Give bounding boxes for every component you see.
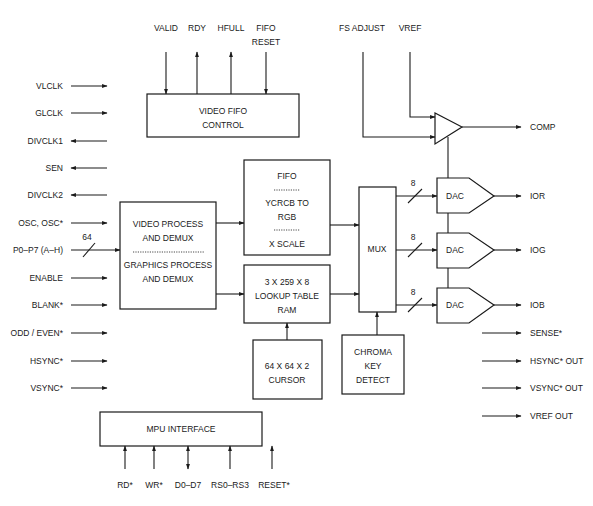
- valid-label: VALID: [154, 23, 178, 33]
- fs-adjust-label: FS ADJUST: [339, 23, 385, 33]
- mpu-interface-block: MPU INTERFACE: [100, 412, 262, 446]
- signal-glclk: GLCLK: [35, 108, 63, 118]
- right-signals: COMP IOR IOG IOB SENSE* HSYNC* OUT VSYNC…: [482, 122, 583, 421]
- lookup-table-block: 3 X 259 X 8 LOOKUP TABLE RAM: [244, 265, 330, 323]
- signal-sen: SEN: [46, 163, 63, 173]
- output-vref: VREF OUT: [530, 411, 573, 421]
- dac-b-label: DAC: [446, 300, 464, 310]
- output-hsync: HSYNC* OUT: [530, 356, 583, 366]
- vref-label: VREF: [399, 23, 422, 33]
- video-process-line1: VIDEO PROCESS: [133, 219, 204, 229]
- fs-adjust-line: [363, 52, 435, 137]
- bus-b-width: 8: [411, 287, 416, 297]
- signal-hsync: HSYNC*: [30, 356, 64, 366]
- output-iob: IOB: [530, 300, 545, 310]
- signal-blank: BLANK*: [32, 300, 64, 310]
- lookup-table-line3: RAM: [278, 305, 297, 315]
- signal-data-bus: D0–D7: [175, 480, 202, 490]
- cursor-line2: CURSOR: [269, 375, 306, 385]
- signal-divclk2: DIVCLK2: [28, 190, 64, 200]
- output-vsync: VSYNC* OUT: [530, 383, 583, 393]
- signal-enable: ENABLE: [29, 273, 63, 283]
- output-iog: IOG: [530, 245, 546, 255]
- video-process-block: VIDEO PROCESS AND DEMUX GRAPHICS PROCESS…: [120, 202, 216, 309]
- signal-osc: OSC, OSC*: [18, 218, 64, 228]
- signal-odd-even: ODD / EVEN*: [11, 328, 64, 338]
- rdy-label: RDY: [188, 23, 206, 33]
- chroma-key-block: CHROMA KEY DETECT: [342, 335, 404, 394]
- video-process-line4: AND DEMUX: [142, 274, 193, 284]
- fifo-line1: FIFO: [277, 171, 297, 181]
- signal-rd: RD*: [117, 480, 133, 490]
- dac-b: DAC: [437, 288, 494, 323]
- bottom-signals: RD* WR* D0–D7 RS0–RS3 RESET*: [117, 446, 290, 490]
- mpu-interface-label: MPU INTERFACE: [147, 424, 216, 434]
- dac-g-label: DAC: [446, 245, 464, 255]
- lookup-table-line2: LOOKUP TABLE: [255, 291, 319, 301]
- output-comp: COMP: [530, 122, 556, 132]
- output-sense: SENSE*: [530, 328, 563, 338]
- video-fifo-control-line2: CONTROL: [202, 120, 244, 130]
- signal-vsync: VSYNC*: [30, 383, 63, 393]
- chroma-key-line2: KEY: [364, 361, 381, 371]
- reference-amplifier: FS ADJUST VREF: [339, 23, 521, 178]
- mux-block: MUX: [359, 187, 396, 312]
- top-signals: VALID RDY HFULL FIFO RESET: [154, 23, 280, 94]
- mux-label: MUX: [368, 244, 387, 254]
- pixel-bus-width: 64: [82, 232, 92, 242]
- video-process-line3: GRAPHICS PROCESS: [124, 260, 213, 270]
- chroma-key-line1: CHROMA: [354, 347, 392, 357]
- dac-r-label: DAC: [446, 191, 464, 201]
- signal-divclk1: DIVCLK1: [28, 136, 64, 146]
- chroma-key-line3: DETECT: [356, 375, 390, 385]
- dac-r: DAC: [437, 178, 494, 213]
- cursor-line1: 64 X 64 X 2: [265, 361, 310, 371]
- dac-g: DAC: [437, 233, 494, 268]
- dac-buses: 8 8 8: [396, 178, 437, 312]
- cursor-block: 64 X 64 X 2 CURSOR: [253, 340, 322, 399]
- vref-line: [410, 52, 435, 117]
- fifo-line4: X SCALE: [269, 239, 305, 249]
- bus-g-width: 8: [411, 232, 416, 242]
- video-process-line2: AND DEMUX: [142, 233, 193, 243]
- fifo-line3: RGB: [278, 212, 297, 222]
- fifo-reset-label-2: RESET: [252, 37, 280, 47]
- bus-r-width: 8: [411, 178, 416, 188]
- block-diagram: VALID RDY HFULL FIFO RESET VIDEO FIFO CO…: [0, 0, 593, 506]
- signal-vlclk: VLCLK: [36, 81, 63, 91]
- left-signals: VLCLK GLCLK DIVCLK1 SEN DIVCLK2 OSC, OSC…: [11, 81, 120, 393]
- video-fifo-control-block: VIDEO FIFO CONTROL: [147, 94, 299, 137]
- fifo-reset-label-1: FIFO: [256, 23, 276, 33]
- fifo-block: FIFO YCRCB TO RGB X SCALE: [244, 160, 330, 255]
- hfull-label: HFULL: [218, 23, 245, 33]
- signal-rs: RS0–RS3: [211, 480, 249, 490]
- signal-pixel-bus: P0–P7 (A–H): [13, 245, 63, 255]
- signal-wr: WR*: [145, 480, 163, 490]
- lookup-table-line1: 3 X 259 X 8: [265, 277, 310, 287]
- video-fifo-control-line1: VIDEO FIFO: [199, 106, 248, 116]
- output-ior: IOR: [530, 191, 545, 201]
- fifo-line2: YCRCB TO: [265, 198, 309, 208]
- signal-reset: RESET*: [258, 480, 290, 490]
